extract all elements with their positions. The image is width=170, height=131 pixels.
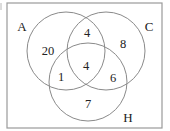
region-count-a-c: 4 [84, 26, 91, 40]
region-count-c-only: 8 [120, 37, 126, 51]
set-circle-c [67, 12, 145, 90]
set-label-c: C [145, 19, 154, 34]
set-label-a: A [17, 19, 27, 34]
region-count-a-only: 20 [42, 44, 55, 58]
region-count-a-c-h: 4 [83, 59, 90, 73]
venn-diagram: A C H 20 4 8 4 1 6 7 [0, 0, 170, 131]
region-count-h-only: 7 [85, 97, 91, 111]
set-label-h: H [123, 110, 132, 125]
region-count-a-h: 1 [58, 70, 64, 84]
set-circle-a [27, 12, 105, 90]
region-count-c-h: 6 [110, 71, 116, 85]
